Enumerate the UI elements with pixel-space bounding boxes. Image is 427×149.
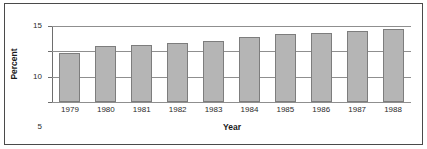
x-axis-tick-label: 1983 bbox=[205, 106, 223, 114]
bar bbox=[239, 37, 260, 102]
y-axis-tick-label: 10 bbox=[33, 73, 42, 81]
y-axis-tick: 0 bbox=[48, 102, 52, 103]
bar bbox=[203, 41, 224, 102]
bar bbox=[59, 53, 80, 102]
x-axis-tick-label: 1981 bbox=[133, 106, 151, 114]
x-axis-title: Year bbox=[223, 123, 241, 132]
x-axis-tick-label: 1988 bbox=[384, 106, 402, 114]
bar bbox=[275, 34, 296, 102]
x-axis-tick-label: 1980 bbox=[97, 106, 115, 114]
bar bbox=[311, 33, 332, 102]
x-axis-tick-label: 1982 bbox=[169, 106, 187, 114]
x-axis-tick-label: 1986 bbox=[312, 106, 330, 114]
bar bbox=[383, 29, 404, 102]
plot-area: 051015 bbox=[52, 26, 411, 102]
bars-group bbox=[52, 26, 411, 102]
x-axis-tick-label: 1984 bbox=[241, 106, 259, 114]
x-axis-tick-label: 1979 bbox=[61, 106, 79, 114]
gridline bbox=[52, 102, 411, 103]
y-axis-tick-label: 15 bbox=[33, 22, 42, 30]
bar bbox=[167, 43, 188, 102]
x-axis-tick-label: 1987 bbox=[348, 106, 366, 114]
y-axis-title: Percent bbox=[10, 48, 19, 79]
y-axis-tick-label: 5 bbox=[38, 123, 42, 131]
bar bbox=[131, 45, 152, 102]
x-axis-tick-label: 1985 bbox=[276, 106, 294, 114]
bar bbox=[95, 46, 116, 102]
bar bbox=[347, 31, 368, 102]
chart-figure: Percent 051015 1979198019811982198319841… bbox=[0, 0, 427, 149]
